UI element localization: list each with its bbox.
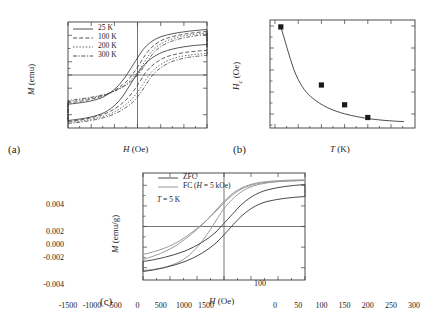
data-point <box>342 102 347 107</box>
legend-key-fc <box>157 183 179 191</box>
panel-c-xlabel: H (Oe) <box>209 296 234 306</box>
legend-key-dotted <box>72 43 94 51</box>
y-ticklabel: 0.002 <box>38 226 64 235</box>
panel-c-annotation: T = 5 K <box>157 195 180 204</box>
panel-a-ylabel: M (emu) <box>26 64 36 95</box>
panel-b-label: (b) <box>233 143 246 155</box>
panel-c-legend: ZFC FC (H = 5 kOe) <box>157 173 231 191</box>
panel-a-legend: 25 K 100 K 200 K 300 K <box>72 24 117 60</box>
legend-key-zfc <box>157 174 179 182</box>
x-ticklabel: 300 <box>408 301 420 310</box>
x-ticklabel: 250 <box>385 301 397 310</box>
legend-label: 300 K <box>98 50 117 61</box>
legend-key-solid <box>72 25 94 33</box>
panel-c-label: (c) <box>100 295 112 307</box>
figure-container: 25 K 100 K 200 K 300 K <box>0 0 431 323</box>
legend-key-dashed <box>72 34 94 42</box>
x-ticklabel: -1500 <box>59 301 78 310</box>
data-point <box>319 82 324 87</box>
legend-item: 300 K <box>72 51 117 60</box>
legend-key-dashdot <box>72 52 94 60</box>
legend-label: FC (H = 5 kOe) <box>183 181 231 192</box>
y-ticklabel: -0.004 <box>35 279 64 288</box>
panel-a: 25 K 100 K 200 K 300 K <box>0 0 215 165</box>
y-ticklabel: 0.000 <box>38 240 64 249</box>
panel-c: ZFC FC (H = 5 kOe) T = 5 K 10 5 0 -5 -10… <box>95 163 345 323</box>
panel-c-ylabel: M (emu/g) <box>110 215 120 253</box>
panel-a-xlabel: H (Oe) <box>123 144 148 154</box>
panel-b-plot <box>215 0 431 165</box>
panel-b-ylabel: Hc (Oe) <box>231 62 243 90</box>
data-point <box>278 24 283 29</box>
legend-item: FC (H = 5 kOe) <box>157 182 231 191</box>
panel-a-label: (a) <box>8 143 20 155</box>
panel-b: 300 250 200 150 100 0 50 100 150 200 250… <box>215 0 431 165</box>
x-ticklabel: 200 <box>362 301 374 310</box>
panel-b-xlabel: T (K) <box>330 144 350 154</box>
data-point <box>365 115 370 120</box>
y-ticklabel: 0.004 <box>38 200 64 209</box>
y-ticklabel: -0.002 <box>35 253 64 262</box>
